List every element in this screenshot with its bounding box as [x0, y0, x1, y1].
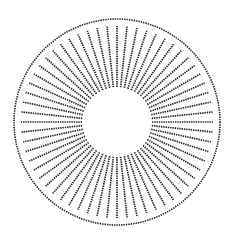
radial-line-diagram — [0, 0, 233, 245]
diagram-svg — [0, 0, 233, 245]
